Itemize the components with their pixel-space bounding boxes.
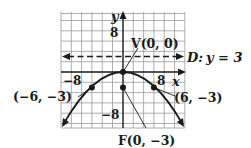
arrow-right-icon xyxy=(176,53,184,60)
y-axis-arrow-icon xyxy=(120,11,127,19)
y-axis-label: y xyxy=(110,9,120,24)
tick-y-neg: −8 xyxy=(101,108,119,122)
tick-x-neg: −8 xyxy=(63,74,81,88)
vertex-label: V(0, 0) xyxy=(130,36,179,51)
vertex-point xyxy=(120,69,126,75)
parabola-graph: y x 8 −8 −8 8 V(0, 0) F(0, −3) (−6, −3) … xyxy=(0,0,251,148)
tick-x-pos: 8 xyxy=(157,74,165,88)
tick-y-pos: 8 xyxy=(110,26,118,40)
point-left xyxy=(89,85,95,91)
focus-point xyxy=(120,85,126,91)
point-right-label: (6, −3) xyxy=(174,90,222,105)
directrix-label-d: D: xyxy=(186,50,203,65)
arrow-left-icon xyxy=(62,53,70,60)
point-right xyxy=(151,85,157,91)
point-left-label: (−6, −3) xyxy=(13,89,72,104)
directrix-label-eq: y = 3 xyxy=(205,50,243,65)
x-axis-label: x xyxy=(171,74,180,89)
focus-label: F(0, −3) xyxy=(118,133,175,148)
